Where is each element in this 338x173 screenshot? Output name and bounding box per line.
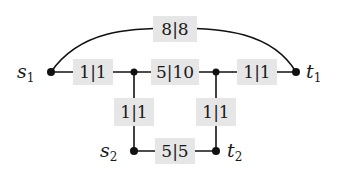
node-junction-b <box>213 69 220 76</box>
node-label-t2: t2 <box>227 139 242 164</box>
flow-network-diagram: 8|8 1|1 5|10 1|1 1|1 1|1 5|5 s1 t1 s2 t2 <box>0 0 338 173</box>
edge-label-a-b: 5|10 <box>151 59 199 85</box>
svg-text:1|1: 1|1 <box>120 102 147 122</box>
svg-text:1|1: 1|1 <box>202 102 229 122</box>
edge-label-s2-t2: 5|5 <box>155 138 195 164</box>
node-s2 <box>130 147 138 155</box>
edge-label-arc: 8|8 <box>153 16 197 42</box>
node-label-s2: s2 <box>100 139 117 164</box>
svg-text:1|1: 1|1 <box>79 62 106 82</box>
svg-text:5|5: 5|5 <box>161 141 188 161</box>
node-t1 <box>292 68 300 76</box>
svg-text:5|10: 5|10 <box>156 62 194 82</box>
node-label-t1: t1 <box>306 60 321 85</box>
edge-label-a-s2: 1|1 <box>114 98 154 126</box>
svg-text:1|1: 1|1 <box>243 62 270 82</box>
node-junction-a <box>131 69 138 76</box>
edge-label-b-t1: 1|1 <box>237 59 277 85</box>
node-label-s1: s1 <box>17 60 34 85</box>
node-s1 <box>47 68 55 76</box>
svg-text:8|8: 8|8 <box>161 19 188 39</box>
edge-label-s1-a: 1|1 <box>73 59 113 85</box>
edge-label-b-t2: 1|1 <box>196 98 236 126</box>
node-t2 <box>212 147 220 155</box>
